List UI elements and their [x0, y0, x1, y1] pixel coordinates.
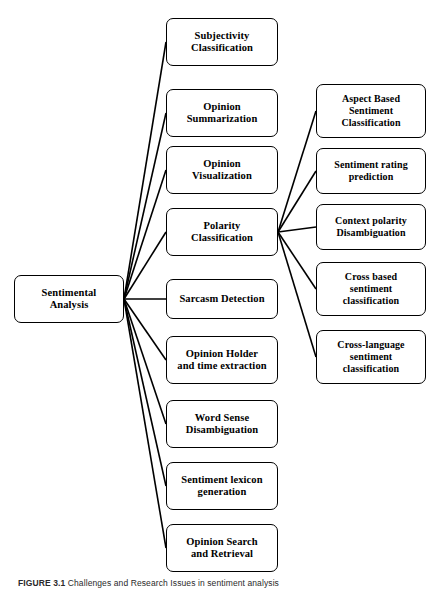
- node-label-word-sense-disambiguation: Word SenseDisambiguation: [183, 412, 262, 437]
- edge-sentimental-analysis-to-subjectivity-classification: [124, 42, 166, 299]
- node-label-opinion-search-and-retrieval: Opinion Searchand Retrieval: [183, 536, 261, 561]
- node-label-opinion-holder-and-time-extraction: Opinion Holderand time extraction: [174, 348, 269, 373]
- node-label-subjectivity-classification: SubjectivityClassification: [188, 30, 256, 55]
- node-label-cross-language-sentiment-classification: Cross-languagesentimentclassification: [334, 339, 407, 374]
- node-cross-language-sentiment-classification: Cross-languagesentimentclassification: [316, 330, 426, 384]
- node-sentiment-lexicon-generation: Sentiment lexicongeneration: [166, 462, 278, 510]
- node-label-aspect-based-sentiment-classification: Aspect BasedSentimentClassification: [338, 93, 403, 128]
- diagram-canvas: SentimentalAnalysisSubjectivityClassific…: [0, 0, 444, 601]
- node-polarity-classification: PolarityClassification: [166, 208, 278, 256]
- node-opinion-visualization: OpinionVisualization: [166, 146, 278, 194]
- node-sentiment-rating-prediction: Sentiment ratingprediction: [316, 148, 426, 194]
- node-aspect-based-sentiment-classification: Aspect BasedSentimentClassification: [316, 84, 426, 138]
- edge-polarity-classification-to-cross-based-sentiment-classification: [278, 232, 316, 289]
- node-word-sense-disambiguation: Word SenseDisambiguation: [166, 400, 278, 448]
- edge-polarity-classification-to-aspect-based-sentiment-classification: [278, 111, 316, 232]
- node-opinion-holder-and-time-extraction: Opinion Holderand time extraction: [166, 336, 278, 384]
- node-cross-based-sentiment-classification: Cross basedsentimentclassification: [316, 262, 426, 316]
- edge-polarity-classification-to-context-polarity-disambiguation: [278, 227, 316, 232]
- edge-sentimental-analysis-to-polarity-classification: [124, 232, 166, 299]
- node-opinion-search-and-retrieval: Opinion Searchand Retrieval: [166, 524, 278, 572]
- node-label-sentiment-lexicon-generation: Sentiment lexicongeneration: [178, 474, 265, 499]
- edge-sentimental-analysis-to-opinion-holder-and-time-extraction: [124, 299, 166, 360]
- node-label-opinion-visualization: OpinionVisualization: [189, 158, 255, 183]
- node-context-polarity-disambiguation: Context polarityDisambiguation: [316, 204, 426, 250]
- edge-sentimental-analysis-to-opinion-summarization: [124, 113, 166, 299]
- node-subjectivity-classification: SubjectivityClassification: [166, 18, 278, 66]
- node-label-opinion-summarization: OpinionSummarization: [184, 101, 261, 126]
- figure-caption: FIGURE 3.1 Challenges and Research Issue…: [18, 578, 438, 588]
- node-label-context-polarity-disambiguation: Context polarityDisambiguation: [332, 215, 410, 239]
- node-label-sentiment-rating-prediction: Sentiment ratingprediction: [331, 159, 411, 183]
- node-label-sarcasm-detection: Sarcasm Detection: [176, 293, 267, 305]
- figure-caption-label: FIGURE 3.1: [18, 578, 65, 588]
- edge-sentimental-analysis-to-opinion-search-and-retrieval: [124, 299, 166, 548]
- node-label-polarity-classification: PolarityClassification: [188, 220, 256, 245]
- node-opinion-summarization: OpinionSummarization: [166, 89, 278, 137]
- node-sarcasm-detection: Sarcasm Detection: [166, 279, 278, 319]
- node-label-cross-based-sentiment-classification: Cross basedsentimentclassification: [340, 271, 402, 306]
- edge-sentimental-analysis-to-word-sense-disambiguation: [124, 299, 166, 424]
- node-label-sentimental-analysis: SentimentalAnalysis: [39, 287, 100, 312]
- edge-sentimental-analysis-to-opinion-visualization: [124, 170, 166, 299]
- edge-polarity-classification-to-sentiment-rating-prediction: [278, 171, 316, 232]
- edge-sentimental-analysis-to-sentiment-lexicon-generation: [124, 299, 166, 486]
- edge-polarity-classification-to-cross-language-sentiment-classification: [278, 232, 316, 357]
- node-sentimental-analysis: SentimentalAnalysis: [14, 275, 124, 323]
- figure-caption-text: Challenges and Research Issues in sentim…: [68, 578, 279, 588]
